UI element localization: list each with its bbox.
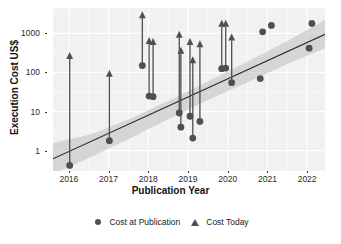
x-tick-mark	[228, 171, 229, 173]
legend-label-cost-at-publication: Cost at Publication	[109, 217, 180, 227]
marker-cost-at-publication	[150, 93, 157, 100]
y-tick-label: 1	[35, 147, 40, 155]
x-tick-label: 2020	[208, 175, 248, 184]
marker-cost-at-publication	[228, 79, 235, 86]
plot-canvas	[53, 8, 325, 171]
marker-cost-at-publication	[257, 75, 264, 82]
y-tick-label: 10	[31, 108, 40, 116]
x-tick-label: 2016	[49, 175, 89, 184]
y-axis-label: Execution Cost US$	[9, 8, 20, 168]
legend-item-cost-at-publication: Cost at Publication	[92, 216, 180, 228]
marker-cost-today	[177, 47, 184, 54]
x-tick-mark	[109, 171, 110, 173]
marker-cost-at-publication	[177, 124, 184, 131]
marker-cost-at-publication	[306, 45, 313, 52]
marker-cost-at-publication	[106, 137, 113, 144]
y-tick-mark	[45, 33, 47, 34]
marker-cost-today	[139, 11, 146, 18]
marker-cost-at-publication	[268, 22, 275, 29]
marker-cost-at-publication	[176, 110, 183, 117]
triangle-marker-icon	[189, 216, 201, 228]
x-axis-label: Publication Year	[0, 185, 341, 196]
x-tick-mark	[307, 171, 308, 173]
chart-figure: 1101001000 2016201720182019202020212022 …	[0, 0, 341, 244]
marker-cost-at-publication	[197, 118, 204, 125]
x-tick-label: 2017	[89, 175, 129, 184]
y-tick-label: 1000	[21, 29, 40, 37]
x-tick-label: 2021	[247, 175, 287, 184]
marker-cost-at-publication	[189, 135, 196, 142]
marker-cost-at-publication	[259, 28, 266, 35]
x-tick-label: 2022	[287, 175, 327, 184]
marker-cost-today	[197, 40, 204, 47]
marker-cost-at-publication	[222, 65, 229, 72]
legend-item-cost-today: Cost Today	[189, 216, 248, 228]
legend-label-cost-today: Cost Today	[206, 217, 248, 227]
x-tick-mark	[69, 171, 70, 173]
x-tick-label: 2018	[128, 175, 168, 184]
marker-cost-at-publication	[66, 162, 73, 169]
marker-cost-today	[106, 70, 113, 77]
y-tick-label: 100	[26, 68, 40, 76]
x-tick-mark	[267, 171, 268, 173]
x-tick-mark	[188, 171, 189, 173]
marker-cost-today	[228, 34, 235, 41]
marker-cost-at-publication	[308, 20, 315, 27]
marker-cost-at-publication	[139, 62, 146, 69]
y-tick-mark	[45, 112, 47, 113]
x-tick-label: 2019	[168, 175, 208, 184]
x-tick-mark	[148, 171, 149, 173]
plot-panel	[53, 8, 325, 171]
chart-legend: Cost at Publication Cost Today	[0, 216, 341, 228]
marker-cost-today	[176, 31, 183, 38]
circle-marker-icon	[92, 216, 104, 228]
y-axis-ticks: 1101001000	[0, 0, 48, 244]
marker-cost-at-publication	[187, 113, 194, 120]
y-tick-mark	[45, 151, 47, 152]
y-tick-mark	[45, 72, 47, 73]
